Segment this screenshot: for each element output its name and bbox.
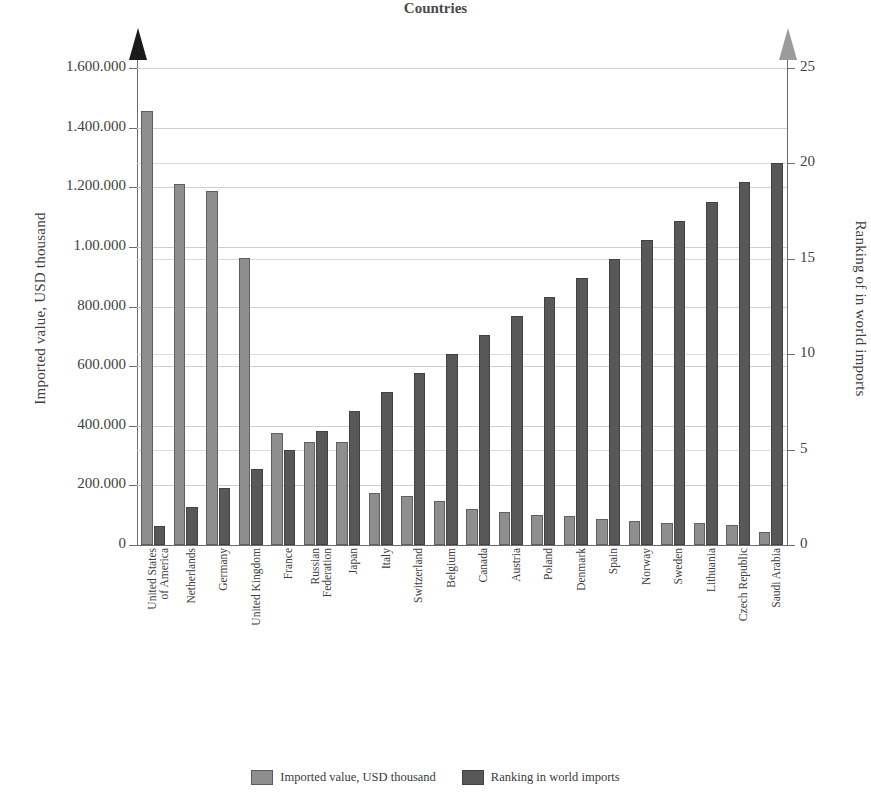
bar-ranking[interactable] bbox=[576, 278, 588, 545]
bar-imported-value[interactable] bbox=[206, 191, 218, 545]
bar-group bbox=[202, 68, 235, 545]
category-label-line: Russian bbox=[310, 548, 322, 597]
category-label-line: Norway bbox=[641, 548, 653, 585]
category-label-line: of America bbox=[159, 548, 171, 610]
category-label: Sweden bbox=[673, 548, 685, 584]
bar-ranking[interactable] bbox=[349, 411, 361, 545]
legend-swatch bbox=[462, 770, 484, 785]
y-axis-right-tick bbox=[787, 163, 795, 164]
bar-ranking[interactable] bbox=[674, 221, 686, 545]
bar-imported-value[interactable] bbox=[369, 493, 381, 545]
category-label: Saudi Arabia bbox=[771, 548, 783, 608]
category-label-line: France bbox=[283, 548, 295, 579]
y-axis-left-tick bbox=[129, 68, 137, 69]
bar-imported-value[interactable] bbox=[759, 532, 771, 545]
y-axis-left-tick bbox=[129, 307, 137, 308]
category-label: Norway bbox=[641, 548, 653, 585]
y-axis-left-tick-label: 800.000 bbox=[77, 297, 126, 314]
category-label-line: Italy bbox=[381, 548, 393, 569]
bar-imported-value[interactable] bbox=[726, 525, 738, 545]
category-label: RussianFederation bbox=[310, 548, 333, 597]
bar-imported-value[interactable] bbox=[694, 523, 706, 545]
chart-figure: Imported value, USD thousand Ranking of … bbox=[0, 0, 871, 804]
y-axis-right-tick bbox=[787, 68, 795, 69]
bar-group bbox=[267, 68, 300, 545]
bar-imported-value[interactable] bbox=[531, 515, 543, 545]
y-axis-left-tick bbox=[129, 485, 137, 486]
bar-ranking[interactable] bbox=[641, 240, 653, 545]
category-label-line: Belgium bbox=[446, 548, 458, 588]
category-label-line: Poland bbox=[543, 548, 555, 580]
category-label: Switzerland bbox=[413, 548, 425, 603]
bar-ranking[interactable] bbox=[154, 526, 166, 545]
bar-ranking[interactable] bbox=[739, 182, 751, 545]
bar-ranking[interactable] bbox=[186, 507, 198, 545]
bar-imported-value[interactable] bbox=[174, 184, 186, 545]
bar-group bbox=[625, 68, 658, 545]
legend-item[interactable]: Imported value, USD thousand bbox=[251, 770, 436, 785]
bar-ranking[interactable] bbox=[609, 259, 621, 545]
y-axis-left-tick-label: 200.000 bbox=[77, 475, 126, 492]
bar-imported-value[interactable] bbox=[239, 258, 251, 545]
bar-ranking[interactable] bbox=[706, 202, 718, 545]
bar-group bbox=[495, 68, 528, 545]
bar-ranking[interactable] bbox=[511, 316, 523, 545]
y-axis-right-tick-label: 10 bbox=[800, 344, 815, 361]
y-axis-left-tick bbox=[129, 426, 137, 427]
bar-group bbox=[430, 68, 463, 545]
bar-imported-value[interactable] bbox=[564, 516, 576, 546]
category-label: France bbox=[283, 548, 295, 579]
category-label-line: Switzerland bbox=[413, 548, 425, 603]
bar-ranking[interactable] bbox=[479, 335, 491, 545]
y-axis-right-tick-label: 15 bbox=[800, 249, 815, 266]
bar-ranking[interactable] bbox=[251, 469, 263, 545]
bar-ranking[interactable] bbox=[771, 163, 783, 545]
y-axis-right-tick-label: 20 bbox=[800, 153, 815, 170]
legend-item[interactable]: Ranking in world imports bbox=[462, 770, 620, 785]
bar-ranking[interactable] bbox=[414, 373, 426, 545]
bars-layer bbox=[137, 68, 787, 545]
bar-ranking[interactable] bbox=[284, 450, 296, 545]
y-axis-right-tick bbox=[787, 259, 795, 260]
category-label-line: Japan bbox=[348, 548, 360, 574]
category-label-line: Sweden bbox=[673, 548, 685, 584]
y-axis-left-tick bbox=[129, 545, 137, 546]
category-label: Belgium bbox=[446, 548, 458, 588]
bar-group bbox=[722, 68, 755, 545]
bar-imported-value[interactable] bbox=[661, 523, 673, 545]
bar-imported-value[interactable] bbox=[466, 509, 478, 545]
category-label-line: Federation bbox=[321, 548, 333, 597]
bar-group bbox=[657, 68, 690, 545]
bar-imported-value[interactable] bbox=[336, 442, 348, 545]
bar-imported-value[interactable] bbox=[596, 519, 608, 545]
bar-imported-value[interactable] bbox=[629, 521, 641, 545]
bar-group bbox=[560, 68, 593, 545]
y-axis-left-tick-label: 1.200.000 bbox=[66, 177, 126, 194]
y-axis-right-tick bbox=[787, 545, 795, 546]
category-label-line: Austria bbox=[511, 548, 523, 582]
y-axis-right-title: Ranking of in world imports bbox=[852, 129, 869, 489]
y-axis-right-tick-label: 25 bbox=[800, 58, 815, 75]
bar-ranking[interactable] bbox=[544, 297, 556, 545]
category-label: Italy bbox=[381, 548, 393, 569]
bar-imported-value[interactable] bbox=[141, 111, 153, 545]
bar-group bbox=[170, 68, 203, 545]
y-axis-left-tick-label: 600.000 bbox=[77, 356, 126, 373]
y-axis-left-tick-label: 1.00.000 bbox=[74, 237, 127, 254]
category-label-line: Canada bbox=[478, 548, 490, 582]
bar-ranking[interactable] bbox=[316, 431, 328, 545]
bar-imported-value[interactable] bbox=[271, 433, 283, 545]
category-label: Lithuania bbox=[706, 548, 718, 592]
y-axis-left-tick bbox=[129, 187, 137, 188]
bar-imported-value[interactable] bbox=[499, 512, 511, 545]
legend-label: Ranking in world imports bbox=[491, 770, 620, 785]
bar-ranking[interactable] bbox=[446, 354, 458, 545]
bar-imported-value[interactable] bbox=[434, 501, 446, 545]
plot-bottom-border bbox=[137, 545, 787, 546]
bar-imported-value[interactable] bbox=[304, 442, 316, 545]
bar-ranking[interactable] bbox=[219, 488, 231, 545]
category-label: Denmark bbox=[576, 548, 588, 591]
bar-group bbox=[690, 68, 723, 545]
bar-imported-value[interactable] bbox=[401, 496, 413, 545]
bar-ranking[interactable] bbox=[381, 392, 393, 545]
